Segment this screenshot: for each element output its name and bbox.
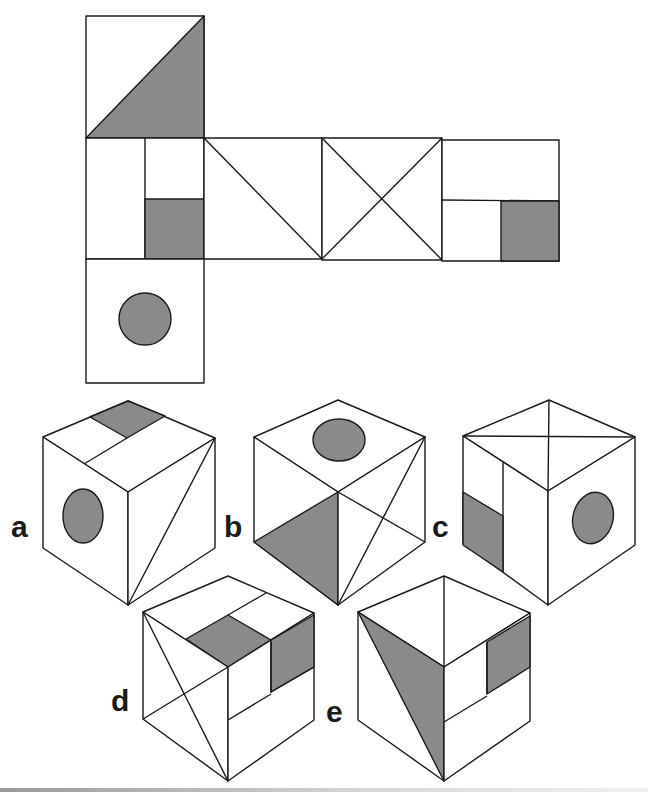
net-face-bottom — [86, 259, 204, 383]
net-face-center-1 — [204, 138, 322, 259]
option-label-a[interactable]: a — [11, 510, 28, 543]
option-cube-e[interactable] — [358, 576, 530, 781]
option-label-c[interactable]: c — [432, 510, 449, 543]
option-label-e[interactable]: e — [326, 695, 343, 728]
bottom-edge-bar — [0, 788, 648, 792]
option-label-d[interactable]: d — [111, 684, 129, 717]
shaded-square — [501, 201, 559, 261]
option-cube-d[interactable] — [143, 576, 314, 781]
shaded-ellipse — [313, 419, 365, 461]
option-cube-a[interactable] — [43, 401, 215, 605]
puzzle-canvas: a b c d e — [0, 0, 648, 792]
option-cube-b[interactable] — [254, 400, 425, 605]
cube-net — [86, 16, 559, 383]
option-cube-c[interactable] — [463, 400, 635, 605]
net-face-left — [86, 138, 204, 259]
net-face-center-2 — [322, 138, 442, 260]
net-face-right — [442, 140, 559, 261]
shaded-square — [145, 199, 204, 259]
option-label-b[interactable]: b — [224, 510, 242, 543]
net-face-top — [86, 16, 204, 138]
shaded-ellipse — [63, 489, 103, 543]
shaded-circle — [119, 293, 171, 345]
